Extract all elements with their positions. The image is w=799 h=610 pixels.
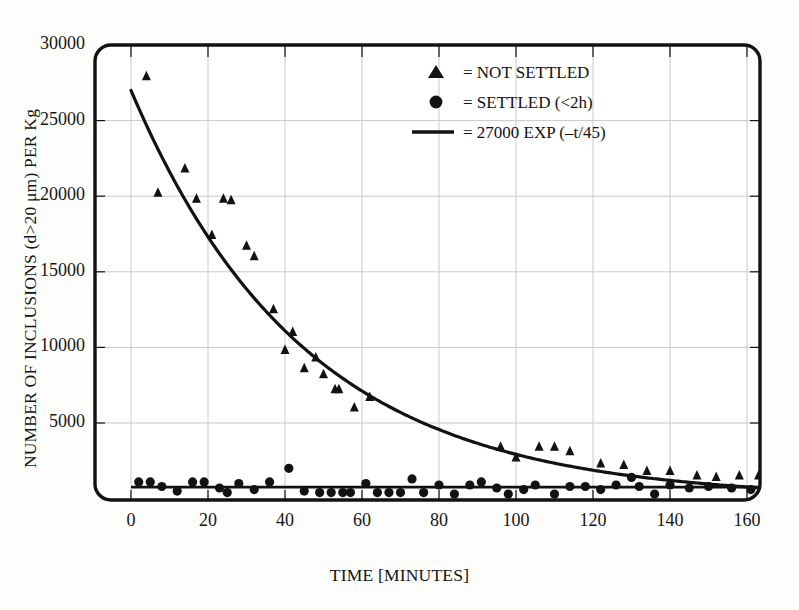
data-point-settled: [173, 486, 182, 495]
data-point-settled: [504, 489, 513, 498]
data-point-settled: [635, 482, 644, 491]
y-tick-label: 15000: [5, 260, 85, 281]
data-point-settled: [519, 485, 528, 494]
data-point-settled: [234, 479, 243, 488]
data-point-settled: [450, 489, 459, 498]
data-point-settled: [223, 488, 232, 497]
data-point-settled: [134, 477, 143, 486]
data-point-settled: [550, 489, 559, 498]
data-point-settled: [596, 485, 605, 494]
data-point-settled: [265, 477, 274, 486]
data-point-settled: [477, 477, 486, 486]
y-tick-label: 30000: [5, 33, 85, 54]
data-point-settled: [384, 488, 393, 497]
data-point-settled: [612, 480, 621, 489]
data-point-settled: [492, 483, 501, 492]
data-point-settled: [565, 482, 574, 491]
data-point-settled: [346, 488, 355, 497]
data-point-settled: [531, 480, 540, 489]
x-tick-label: 140: [640, 510, 700, 531]
data-point-settled: [465, 480, 474, 489]
x-tick-label: 40: [255, 510, 315, 531]
data-point-settled: [581, 482, 590, 491]
y-tick-label: 10000: [5, 335, 85, 356]
data-point-settled: [315, 488, 324, 497]
data-point-settled: [434, 480, 443, 489]
x-tick-label: 80: [409, 510, 469, 531]
legend-label: = SETTLED (<2h): [463, 93, 593, 112]
x-tick-label: 120: [563, 510, 623, 531]
data-point-settled: [627, 473, 636, 482]
data-point-settled: [727, 483, 736, 492]
chart-figure: NUMBER OF INCLUSIONS (d>20 μm) PER Kg TI…: [0, 0, 799, 610]
x-tick-label: 160: [717, 510, 777, 531]
y-tick-label: 5000: [5, 411, 85, 432]
data-point-settled: [665, 480, 674, 489]
data-point-settled: [284, 464, 293, 473]
data-point-settled: [327, 488, 336, 497]
data-point-settled: [704, 482, 713, 491]
x-tick-label: 20: [178, 510, 238, 531]
data-point-settled: [146, 477, 155, 486]
legend-label: = 27000 EXP (–t/45): [463, 123, 606, 142]
data-point-settled: [157, 482, 166, 491]
data-point-settled: [746, 485, 755, 494]
data-point-settled: [300, 486, 309, 495]
x-tick-label: 100: [486, 510, 546, 531]
data-point-settled: [419, 488, 428, 497]
data-point-settled: [396, 488, 405, 497]
legend-item-triangle: = NOT SETTLED: [425, 62, 589, 83]
data-point-settled: [407, 474, 416, 483]
x-tick-label: 60: [332, 510, 392, 531]
x-tick-label: 0: [101, 510, 161, 531]
data-point-settled: [650, 489, 659, 498]
line-marker-icon: [411, 123, 455, 143]
legend-label: = NOT SETTLED: [463, 63, 589, 82]
y-tick-label: 25000: [5, 109, 85, 130]
legend-item-line: = 27000 EXP (–t/45): [425, 122, 606, 143]
data-point-settled: [685, 483, 694, 492]
legend-item-circle: = SETTLED (<2h): [425, 92, 593, 113]
y-tick-label: 20000: [5, 184, 85, 205]
data-point-settled: [188, 477, 197, 486]
data-point-settled: [361, 479, 370, 488]
data-point-settled: [373, 488, 382, 497]
data-point-settled: [215, 483, 224, 492]
data-point-settled: [200, 477, 209, 486]
data-point-settled: [250, 485, 259, 494]
